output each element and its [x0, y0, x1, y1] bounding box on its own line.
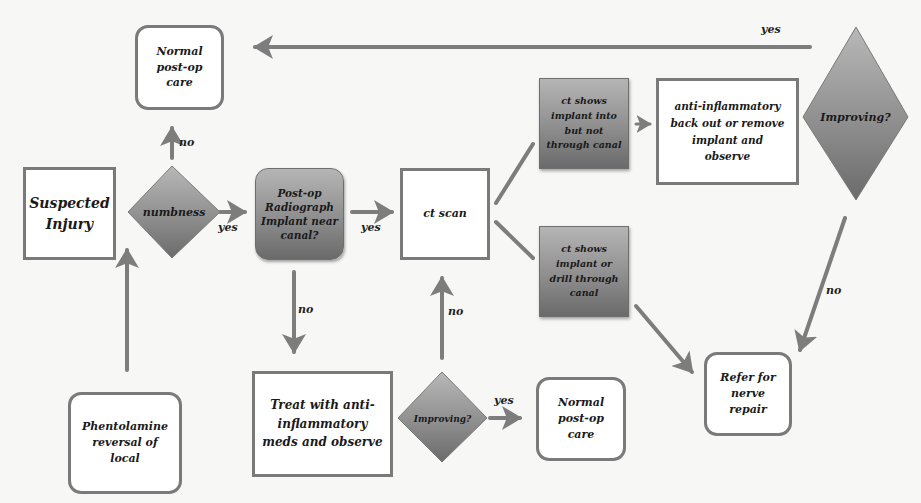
anti-inflammatory-backout-label: anti-inflammatory back out or remove imp…: [671, 98, 785, 165]
edge-label-numbness-no: no: [179, 136, 194, 149]
improving-bottom-diamond-label: Improving?: [398, 408, 487, 430]
edge-label-improving-bottom-no: no: [448, 305, 463, 318]
ct-into-not-through-canal-label: ct shows implant into but not through ca…: [546, 94, 621, 153]
ct-into-not-through-canal-node: ct shows implant into but not through ca…: [539, 78, 629, 169]
edge-label-improving-bottom-yes: yes: [494, 394, 514, 407]
anti-inflammatory-backout-node: anti-inflammatory back out or remove imp…: [656, 78, 799, 185]
phentolamine-node: Phentolamine reversal of local: [68, 392, 182, 494]
edge-label-numbness-yes: yes: [218, 221, 238, 234]
refer-nerve-repair-node: Refer for nerve repair: [704, 352, 792, 436]
suspected-injury-label: Suspected Injury: [29, 193, 110, 234]
edge-label-radiograph-no: no: [298, 303, 313, 316]
edge-label-improving-top-no: no: [826, 284, 841, 297]
normal-care-top-label: Normal post-op care: [156, 44, 202, 92]
improving-top-text: Improving?: [820, 111, 890, 124]
post-op-radiograph-label: Post-op Radiograph Implant near canal?: [261, 186, 338, 243]
phentolamine-label: Phentolamine reversal of local: [82, 419, 168, 467]
line-ct-scan-to-through-canal: [496, 222, 533, 258]
treat-anti-inflammatory-node: Treat with anti- inflammatory meds and o…: [252, 371, 393, 477]
treat-anti-inflammatory-label: Treat with anti- inflammatory meds and o…: [262, 396, 382, 452]
post-op-radiograph-node: Post-op Radiograph Implant near canal?: [255, 168, 344, 260]
numbness-diamond-label: numbness: [128, 200, 220, 224]
ct-through-canal-node: ct shows implant or drill through canal: [539, 226, 629, 317]
edge-label-radiograph-yes: yes: [361, 221, 381, 234]
suspected-injury-node: Suspected Injury: [23, 167, 116, 260]
improving-bottom-text: Improving?: [414, 414, 472, 424]
normal-care-bottom-node: Normal post-op care: [536, 377, 626, 461]
ct-scan-node: ct scan: [400, 168, 490, 260]
flowchart: Suspected Injury Normal post-op care Pos…: [0, 0, 921, 503]
edge-label-improving-top-yes: yes: [761, 23, 781, 36]
improving-top-diamond-label: Improving?: [803, 104, 908, 130]
normal-care-bottom-label: Normal post-op care: [558, 395, 604, 443]
normal-care-top-node: Normal post-op care: [135, 25, 224, 110]
ct-through-canal-label: ct shows implant or drill through canal: [550, 242, 619, 301]
arrow-through-canal-to-refer: [636, 306, 692, 372]
refer-nerve-repair-label: Refer for nerve repair: [720, 370, 775, 418]
ct-scan-label: ct scan: [423, 206, 467, 222]
line-ct-scan-to-into-canal: [496, 144, 533, 203]
numbness-text: numbness: [143, 206, 206, 219]
